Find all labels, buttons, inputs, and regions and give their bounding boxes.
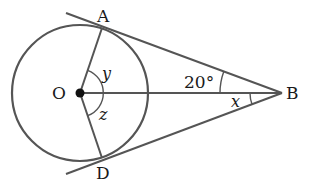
angle-arc-x [250,93,252,104]
label-d: D [96,163,110,183]
label-angle-x: x [231,92,240,111]
label-b: B [286,83,299,103]
label-o: O [52,83,66,103]
radius-od [80,93,102,158]
angle-arc-y [88,70,104,93]
label-angle-20: 20° [184,72,214,92]
label-angle-y: y [101,64,112,83]
center-point-o [76,89,85,98]
radius-oa [80,28,102,93]
label-a: A [96,6,110,26]
angle-arc-20deg [220,71,224,93]
geometry-diagram: A D O B y z 20° x [0,0,309,186]
label-angle-z: z [98,105,108,124]
